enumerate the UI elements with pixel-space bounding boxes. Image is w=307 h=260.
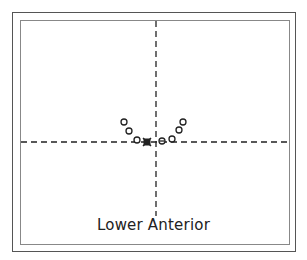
open-circle-marker [126,128,132,134]
open-circle-marker [134,137,140,143]
open-circle-marker [169,136,175,142]
crosshair-axes [21,21,289,218]
label-text: Lower Anterior [95,216,212,234]
open-circle-marker [180,119,186,125]
open-circle-marker [121,119,127,125]
diagram-label: Lower Anterior [0,216,307,234]
open-circle-marker [176,127,182,133]
